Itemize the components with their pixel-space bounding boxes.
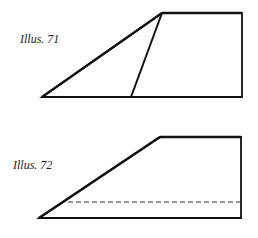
illustration-71: Illus. 71: [0, 0, 258, 119]
illustration-71-drawing: [0, 0, 258, 119]
illustration-72-drawing: [0, 119, 258, 238]
illustration-72: Illus. 72: [0, 119, 258, 238]
